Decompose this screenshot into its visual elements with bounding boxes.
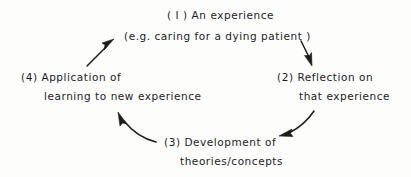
stage-1-line-2: (e.g. caring for a dying patient ) — [124, 27, 311, 45]
stage-2-line-2: that experience — [299, 87, 390, 105]
arrow-stage2-to-stage3 — [279, 111, 314, 137]
stage-1-line-1: ( I ) An experience — [167, 6, 274, 24]
stage-3-line-2: theories/concepts — [180, 152, 283, 170]
experiential-learning-cycle-diagram: ( I ) An experience (e.g. caring for a d… — [0, 0, 411, 177]
arrow-stage3-to-stage4 — [118, 112, 156, 142]
stage-4-line-2: learning to new experience — [44, 87, 202, 105]
stage-3-line-1: (3) Development of — [164, 133, 276, 151]
stage-4-line-1: (4) Application of — [21, 68, 121, 86]
arrow-stage4-to-stage1 — [87, 39, 114, 66]
stage-2-line-1: (2) Reflection on — [277, 68, 373, 86]
